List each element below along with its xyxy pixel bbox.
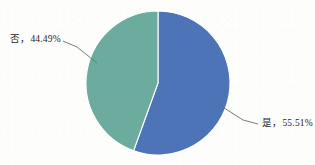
pie-chart-figure: 否，44.49% 是，55.51%	[0, 0, 315, 165]
pie-label-no: 否，44.49%	[10, 35, 61, 45]
pie-label-yes: 是，55.51%	[262, 119, 313, 129]
leader-line-yes	[221, 106, 258, 124]
pie-chart-canvas	[0, 0, 315, 165]
